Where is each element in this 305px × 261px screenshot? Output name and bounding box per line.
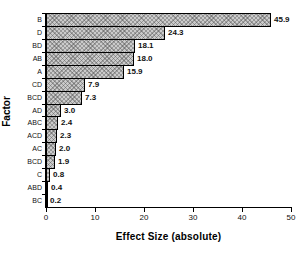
plot-area: 45.924.318.118.015.97.97.33.02.42.32.01.… bbox=[45, 13, 292, 208]
bar-value-label: 2.3 bbox=[60, 132, 71, 140]
y-axis-tick bbox=[42, 65, 45, 66]
bar-value-label: 24.3 bbox=[168, 29, 184, 37]
bar-acd-9 bbox=[46, 129, 57, 143]
category-label-bc-14: BC bbox=[0, 194, 42, 208]
bar-abc-8 bbox=[46, 116, 58, 130]
bar-cd-5 bbox=[46, 78, 85, 92]
x-axis-tick bbox=[95, 208, 96, 212]
y-axis-tick bbox=[42, 52, 45, 53]
category-label-ab-3: AB bbox=[0, 52, 42, 66]
x-axis-title: Effect Size (absolute) bbox=[46, 231, 291, 242]
y-axis-tick bbox=[42, 142, 45, 143]
bar-ac-10 bbox=[46, 142, 56, 156]
y-axis-tick bbox=[42, 91, 45, 92]
category-label-c-12: C bbox=[0, 168, 42, 182]
x-axis-tick-label: 50 bbox=[279, 213, 303, 222]
category-label-bd-2: BD bbox=[0, 39, 42, 53]
category-label-cd-5: CD bbox=[0, 78, 42, 92]
bar-bcd-6 bbox=[46, 91, 82, 105]
category-label-ac-10: AC bbox=[0, 142, 42, 156]
y-axis-tick bbox=[42, 39, 45, 40]
bar-value-label: 1.9 bbox=[58, 158, 69, 166]
x-axis-tick bbox=[242, 208, 243, 212]
category-label-abc-8: ABC bbox=[0, 116, 42, 130]
x-axis-tick bbox=[144, 208, 145, 212]
y-axis-tick bbox=[42, 78, 45, 79]
x-axis-tick bbox=[193, 208, 194, 212]
bar-c-12 bbox=[46, 168, 50, 182]
y-axis-tick bbox=[42, 129, 45, 130]
bar-ab-3 bbox=[46, 52, 134, 66]
y-axis-tick bbox=[42, 104, 45, 105]
bar-value-label: 7.9 bbox=[88, 81, 99, 89]
bar-value-label: 45.9 bbox=[274, 16, 290, 24]
y-axis-tick bbox=[42, 168, 45, 169]
bar-value-label: 18.0 bbox=[137, 55, 153, 63]
x-axis-tick bbox=[46, 208, 47, 212]
bar-bd-2 bbox=[46, 39, 135, 53]
x-axis-tick-label: 40 bbox=[230, 213, 254, 222]
pareto-effects-chart: Factor 45.924.318.118.015.97.97.33.02.42… bbox=[0, 0, 305, 261]
bar-d-1 bbox=[46, 26, 165, 40]
bar-value-label: 15.9 bbox=[127, 68, 143, 76]
category-label-acd-9: ACD bbox=[0, 129, 42, 143]
y-axis-tick bbox=[42, 194, 45, 195]
bar-value-label: 7.3 bbox=[85, 94, 96, 102]
category-label-b-0: B bbox=[0, 13, 42, 27]
bar-bcd-11 bbox=[46, 155, 55, 169]
bar-value-label: 3.0 bbox=[64, 107, 75, 115]
bar-value-label: 2.4 bbox=[61, 119, 72, 127]
category-label-bcd-6: BCD bbox=[0, 91, 42, 105]
bar-abd-13 bbox=[46, 181, 48, 195]
bar-bc-14 bbox=[46, 194, 48, 208]
bar-value-label: 0.2 bbox=[50, 197, 61, 205]
y-axis-tick bbox=[42, 155, 45, 156]
x-axis-tick-label: 0 bbox=[34, 213, 58, 222]
bar-value-label: 2.0 bbox=[59, 145, 70, 153]
bar-value-label: 18.1 bbox=[138, 42, 154, 50]
bar-a-4 bbox=[46, 65, 124, 79]
x-axis-tick-label: 30 bbox=[181, 213, 205, 222]
y-axis-tick bbox=[42, 13, 45, 14]
x-axis-tick-label: 20 bbox=[132, 213, 156, 222]
y-axis-tick bbox=[42, 116, 45, 117]
category-label-abd-13: ABD bbox=[0, 181, 42, 195]
y-axis-tick bbox=[42, 26, 45, 27]
bar-value-label: 0.4 bbox=[51, 184, 62, 192]
x-axis-tick-label: 10 bbox=[83, 213, 107, 222]
category-label-a-4: A bbox=[0, 65, 42, 79]
y-axis-tick bbox=[42, 181, 45, 182]
bar-value-label: 0.8 bbox=[53, 171, 64, 179]
category-label-d-1: D bbox=[0, 26, 42, 40]
bar-b-0 bbox=[46, 13, 271, 27]
category-label-bcd-11: BCD bbox=[0, 155, 42, 169]
x-axis-tick bbox=[291, 208, 292, 212]
